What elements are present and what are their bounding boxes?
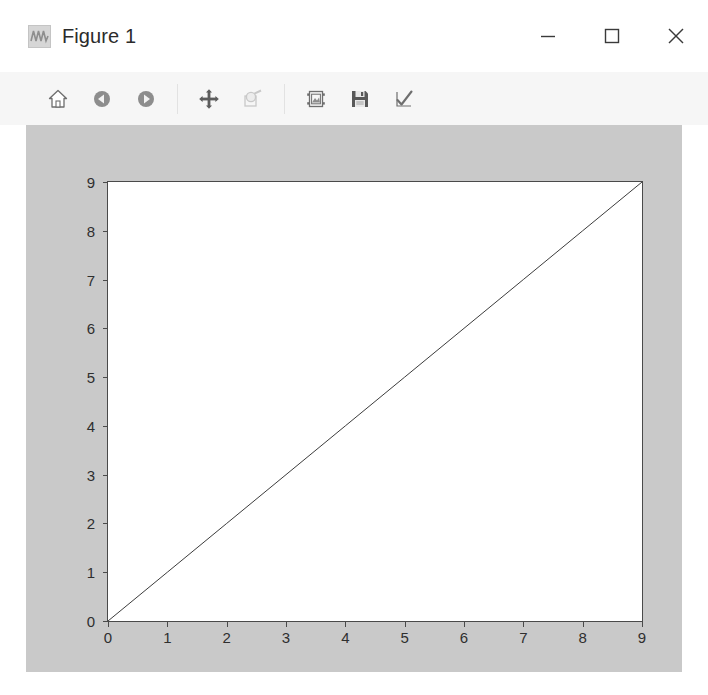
- x-tick-mark: [405, 622, 406, 627]
- plot-line-series: [108, 182, 642, 621]
- x-tick-mark: [583, 622, 584, 627]
- maximize-button[interactable]: [580, 0, 644, 72]
- x-tick-label: 9: [638, 629, 646, 646]
- y-tick-mark: [103, 328, 108, 329]
- x-tick-label: 6: [460, 629, 468, 646]
- back-button[interactable]: [80, 79, 124, 119]
- configure-subplots-button[interactable]: [294, 79, 338, 119]
- x-tick-mark: [345, 622, 346, 627]
- navigation-toolbar: [0, 72, 708, 125]
- y-tick-label: 6: [87, 320, 95, 337]
- x-tick-label: 0: [104, 629, 112, 646]
- y-tick-label: 2: [87, 515, 95, 532]
- window-controls: [516, 0, 708, 72]
- y-tick-mark: [103, 377, 108, 378]
- page-title: Figure 1: [62, 25, 136, 48]
- toolbar-separator-2: [284, 84, 285, 114]
- close-button[interactable]: [644, 0, 708, 72]
- x-tick-mark: [227, 622, 228, 627]
- x-tick-mark: [642, 622, 643, 627]
- x-tick-mark: [286, 622, 287, 627]
- y-tick-mark: [103, 523, 108, 524]
- forward-button[interactable]: [124, 79, 168, 119]
- y-tick-mark: [103, 572, 108, 573]
- y-tick-label: 9: [87, 174, 95, 191]
- x-tick-mark: [464, 622, 465, 627]
- x-tick-label: 2: [222, 629, 230, 646]
- zoom-rect-button[interactable]: [231, 79, 275, 119]
- figure-canvas[interactable]: 01234567890123456789: [26, 125, 682, 672]
- y-tick-mark: [103, 182, 108, 183]
- x-tick-label: 7: [519, 629, 527, 646]
- y-tick-label: 7: [87, 271, 95, 288]
- title-bar[interactable]: Figure 1: [0, 0, 708, 72]
- title-bar-left: Figure 1: [28, 25, 136, 48]
- x-tick-mark: [108, 622, 109, 627]
- home-button[interactable]: [36, 79, 80, 119]
- y-tick-label: 8: [87, 222, 95, 239]
- y-tick-label: 4: [87, 417, 95, 434]
- x-tick-label: 8: [578, 629, 586, 646]
- pan-button[interactable]: [187, 79, 231, 119]
- y-tick-mark: [103, 280, 108, 281]
- y-tick-mark: [103, 231, 108, 232]
- y-tick-mark: [103, 426, 108, 427]
- y-tick-mark: [103, 475, 108, 476]
- y-tick-label: 1: [87, 564, 95, 581]
- minimize-button[interactable]: [516, 0, 580, 72]
- figure-window: Figure 1: [0, 0, 708, 695]
- x-tick-label: 1: [163, 629, 171, 646]
- x-tick-mark: [523, 622, 524, 627]
- y-tick-mark: [103, 621, 108, 622]
- x-tick-label: 3: [282, 629, 290, 646]
- data-line-y-equals-x: [108, 182, 642, 621]
- y-tick-label: 0: [87, 613, 95, 630]
- edit-axis-button[interactable]: [382, 79, 426, 119]
- save-figure-button[interactable]: [338, 79, 382, 119]
- x-tick-label: 4: [341, 629, 349, 646]
- toolbar-separator-1: [177, 84, 178, 114]
- x-tick-mark: [167, 622, 168, 627]
- y-tick-label: 5: [87, 369, 95, 386]
- y-tick-label: 3: [87, 466, 95, 483]
- x-tick-label: 5: [400, 629, 408, 646]
- waveform-icon: [28, 25, 51, 48]
- plot-axes[interactable]: 01234567890123456789: [107, 181, 643, 622]
